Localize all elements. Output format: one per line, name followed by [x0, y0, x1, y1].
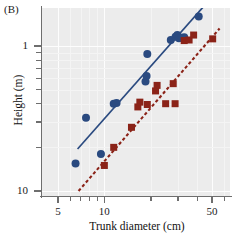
gridline-horizontal-minor — [42, 78, 230, 79]
y-tick-minor — [36, 121, 41, 122]
gridline-horizontal — [42, 191, 230, 192]
plot-area — [42, 8, 230, 196]
gridline-horizontal-minor — [42, 104, 230, 105]
gridline-vertical-minor — [97, 8, 98, 196]
x-tick-minor — [177, 197, 178, 201]
x-tick-label: 50 — [200, 205, 224, 217]
y-tick-minor — [36, 89, 41, 90]
y-tick-major — [34, 45, 41, 46]
y-tick-minor — [36, 103, 41, 104]
x-tick-minor — [89, 197, 90, 201]
x-tick-minor — [197, 197, 198, 201]
gridline-vertical — [212, 8, 213, 196]
x-tick-minor — [224, 197, 225, 201]
y-tick-minor — [36, 78, 41, 79]
gridline-vertical-minor — [89, 8, 90, 196]
gridline-vertical-minor — [151, 8, 152, 196]
gridline-vertical-minor — [178, 8, 179, 196]
gridline-vertical — [58, 8, 59, 196]
gridline-horizontal-minor — [42, 122, 230, 123]
x-tick-minor — [80, 197, 81, 201]
gridline-vertical-minor — [224, 8, 225, 196]
y-tick-major — [34, 190, 41, 191]
gridline-horizontal-minor — [42, 53, 230, 54]
x-tick-minor — [150, 197, 151, 201]
x-tick-major — [211, 197, 212, 203]
gridline-vertical-minor — [81, 8, 82, 196]
gridline-vertical — [104, 8, 105, 196]
x-tick-label: 10 — [92, 205, 116, 217]
data-point-circle — [209, 0, 217, 1]
y-tick-minor — [36, 147, 41, 148]
x-tick-major — [57, 197, 58, 203]
gridline-horizontal-minor — [42, 147, 230, 148]
panel-label: (B) — [4, 3, 19, 15]
gridline-horizontal — [42, 46, 230, 47]
gridline-horizontal-minor — [42, 60, 230, 61]
y-tick-minor — [36, 52, 41, 53]
x-tick-minor — [70, 197, 71, 201]
y-axis-line — [41, 6, 42, 198]
x-axis-title: Trunk diameter (cm) — [42, 220, 232, 232]
gridline-horizontal-minor — [42, 90, 230, 91]
y-axis-title: Height (m) — [12, 40, 24, 160]
figure-root: (B) 10151050 Trunk diameter (cm) Height … — [0, 0, 242, 242]
y-tick-minor — [36, 68, 41, 69]
x-tick-major — [104, 197, 105, 203]
x-tick-label: 5 — [46, 205, 70, 217]
gridline-vertical-minor — [70, 8, 71, 196]
gridline-vertical-minor — [197, 8, 198, 196]
x-tick-minor — [97, 197, 98, 201]
y-tick-minor — [36, 60, 41, 61]
y-tick-label: 10 — [6, 184, 28, 196]
data-point-circle — [205, 0, 213, 2]
gridline-horizontal-minor — [42, 68, 230, 69]
